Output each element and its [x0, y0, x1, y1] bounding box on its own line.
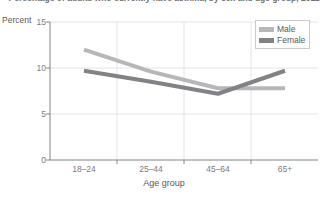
x-tick-label: 45–64 — [206, 164, 230, 174]
asthma-by-sex-age-chart: Percentage of adults who currently have … — [0, 0, 328, 197]
legend-swatch-female-icon — [259, 38, 274, 43]
x-axis-title: Age group — [0, 178, 328, 188]
legend-swatch-male-icon — [259, 27, 274, 32]
legend-label-male: Male — [277, 24, 295, 34]
legend-label-female: Female — [277, 35, 305, 45]
legend-item-male: Male — [259, 24, 305, 34]
x-tick-label: 65+ — [278, 164, 292, 174]
x-tick-label: 18–24 — [72, 164, 96, 174]
legend-item-female: Female — [259, 35, 305, 45]
x-tick-label: 25–44 — [139, 164, 163, 174]
chart-legend: Male Female — [255, 20, 310, 49]
